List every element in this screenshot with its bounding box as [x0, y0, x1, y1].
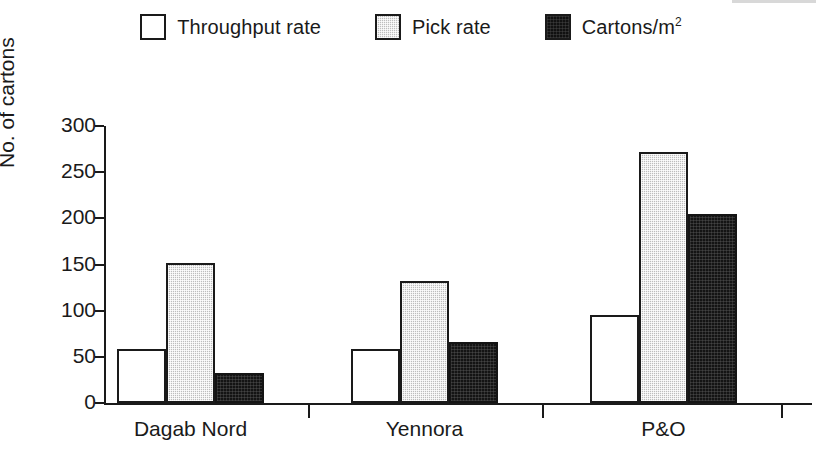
bar [351, 349, 400, 403]
y-axis-tick [95, 171, 104, 173]
y-axis-tick [95, 125, 104, 127]
legend-label-cartons-exponent: 2 [675, 15, 682, 29]
bar [449, 342, 498, 403]
bar [688, 214, 737, 403]
legend-label-cartons-per-m2: Cartons/m2 [582, 16, 682, 39]
y-axis-tick-label: 100 [61, 298, 96, 322]
y-axis-tick [95, 310, 104, 312]
chart-legend: Throughput rate Pick rate Cartons/m2 [0, 14, 822, 40]
bar [166, 263, 215, 403]
gray-square-icon [375, 14, 401, 40]
y-axis-line [104, 126, 106, 405]
y-axis-tick [95, 264, 104, 266]
bar [590, 315, 639, 403]
group-separator-tick [308, 405, 310, 418]
white-square-icon [140, 14, 166, 40]
y-axis-tick-label: 200 [61, 205, 96, 229]
y-axis-tick [95, 217, 104, 219]
legend-item-cartons-per-m2: Cartons/m2 [545, 14, 682, 40]
legend-item-pick-rate: Pick rate [375, 14, 491, 40]
bar [400, 281, 449, 403]
y-axis-tick [95, 356, 104, 358]
legend-label-cartons-text: Cartons/m [582, 16, 675, 38]
y-axis-tick-label: 300 [61, 113, 96, 137]
bar [215, 373, 264, 403]
group-separator-tick [781, 405, 783, 418]
group-separator-tick [542, 405, 544, 418]
black-square-icon [545, 14, 571, 40]
legend-label-throughput-rate: Throughput rate [177, 16, 321, 39]
plot-area [104, 126, 812, 405]
bar [639, 152, 688, 403]
bar-chart-figure: Throughput rate Pick rate Cartons/m2 No.… [0, 0, 822, 461]
y-axis-tick-label: 50 [73, 344, 96, 368]
y-axis-title: No. of cartons [0, 37, 19, 168]
y-axis-tick [95, 402, 104, 404]
x-axis-line [104, 403, 812, 405]
x-axis-category-label: Yennora [386, 417, 463, 441]
x-axis-category-label: P&O [641, 417, 685, 441]
y-axis-tick-label: 150 [61, 252, 96, 276]
y-axis-tick-label: 250 [61, 159, 96, 183]
legend-item-throughput-rate: Throughput rate [140, 14, 321, 40]
bar [117, 349, 166, 403]
legend-label-pick-rate: Pick rate [412, 16, 491, 39]
page-edge-artifact [732, 0, 816, 3]
x-axis-category-label: Dagab Nord [134, 417, 247, 441]
